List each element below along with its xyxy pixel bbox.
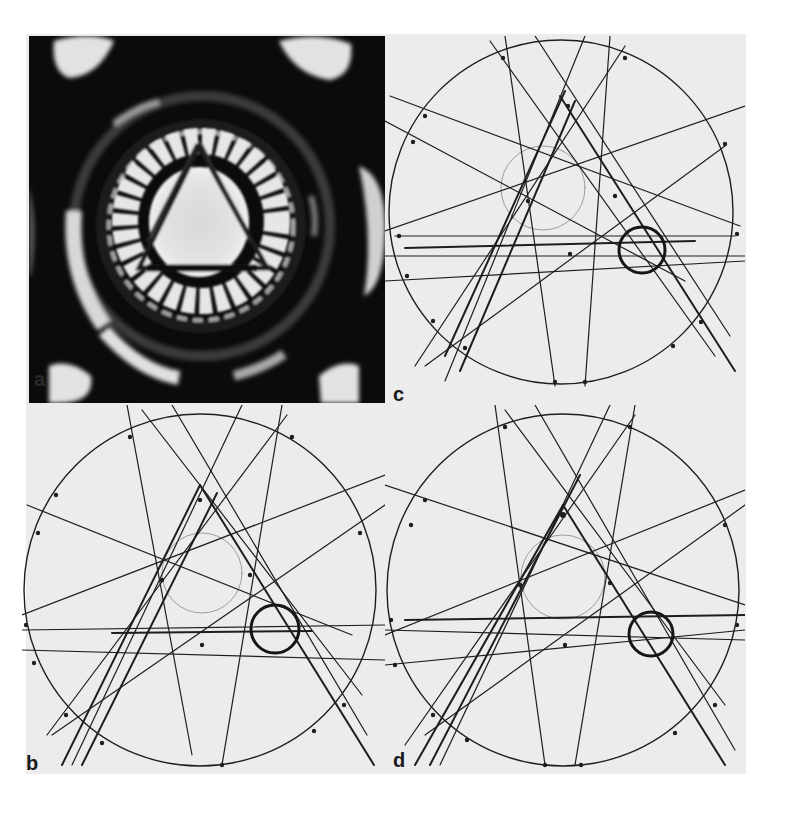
kikuchi-line-diagram-c <box>385 36 745 396</box>
diffraction-pattern-image <box>29 36 385 403</box>
panel-label-a: a <box>34 369 45 389</box>
panel-c: c <box>385 36 745 396</box>
panel-label-d: d <box>393 750 405 770</box>
figure: a <box>0 0 793 820</box>
panel-b: b <box>22 405 385 775</box>
kikuchi-line-diagram-d <box>385 405 745 775</box>
kikuchi-line-diagram-b <box>22 405 385 775</box>
zoom-circle-b <box>251 605 299 653</box>
zoom-circle-d <box>629 612 673 656</box>
panel-d: d <box>385 405 745 775</box>
panel-label-b: b <box>26 753 38 773</box>
panel-a: a <box>29 36 385 403</box>
panel-label-c: c <box>393 384 404 404</box>
